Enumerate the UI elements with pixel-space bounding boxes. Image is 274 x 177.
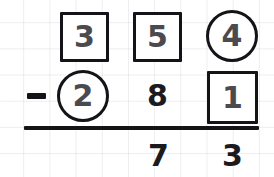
minuend-tens-cell[interactable]: 5 [133,12,182,62]
minuend-hundreds-digit: 3 [74,22,95,52]
subtrahend-hundreds-cell[interactable]: 2 [57,70,109,122]
subtrahend-ones-digit: 1 [222,83,243,113]
minus-operator-label: − [27,93,28,94]
minus-operator-icon: − [27,93,46,99]
worksheet-canvas: 3 5 4 − 2 8 1 7 3 [0,0,274,177]
minuend-tens-digit: 5 [147,22,168,52]
minuend-hundreds-cell[interactable]: 3 [60,12,109,62]
difference-ones-cell[interactable]: 3 [208,136,257,176]
minuend-ones-cell[interactable]: 4 [206,10,258,62]
difference-ones-digit: 3 [222,141,243,171]
subtrahend-tens-cell[interactable]: 8 [133,72,182,120]
difference-tens-cell[interactable]: 7 [134,136,183,176]
difference-tens-digit: 7 [148,141,169,171]
subtrahend-tens-digit: 8 [147,81,168,111]
subtrahend-ones-cell[interactable]: 1 [207,71,258,124]
answer-separator-line [24,126,259,130]
subtrahend-hundreds-digit: 2 [73,81,94,111]
minuend-ones-digit: 4 [222,21,243,51]
difference-hundreds-cell[interactable] [60,136,109,176]
